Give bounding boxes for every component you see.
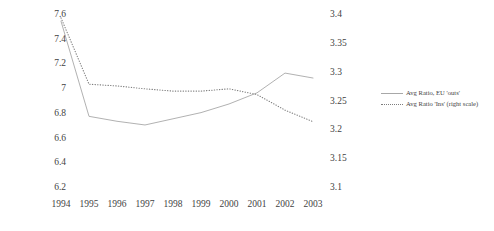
legend-item: Avg Ratio 'Ins' (right scale) <box>381 99 493 109</box>
legend-swatch-icon <box>381 100 403 108</box>
x-axis-tick: 1994 <box>52 200 71 210</box>
x-axis-tick: 2002 <box>276 200 295 210</box>
x-axis-tick: 1997 <box>136 200 155 210</box>
legend-item-label: Avg Ratio, EU 'outs' <box>406 90 460 97</box>
x-axis-tick-labels: 1994199519961997199819992000200120022003 <box>0 0 494 231</box>
x-axis-tick: 1998 <box>164 200 183 210</box>
x-axis-tick: 1999 <box>192 200 211 210</box>
chart-container: 7.67.47.276.86.66.46.2 3.43.353.33.253.2… <box>0 0 494 231</box>
legend-item: Avg Ratio, EU 'outs' <box>381 88 493 98</box>
x-axis-tick: 2003 <box>304 200 323 210</box>
x-axis-tick: 2001 <box>248 200 267 210</box>
legend-item-label: Avg Ratio 'Ins' (right scale) <box>406 101 478 108</box>
x-axis-tick: 1996 <box>108 200 127 210</box>
legend-swatch-icon <box>381 89 403 97</box>
chart-legend: Avg Ratio, EU 'outs'Avg Ratio 'Ins' (rig… <box>381 88 493 110</box>
x-axis-tick: 2000 <box>220 200 239 210</box>
x-axis-tick: 1995 <box>80 200 99 210</box>
